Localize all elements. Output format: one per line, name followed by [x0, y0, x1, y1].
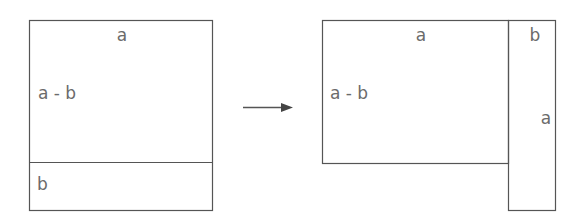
rearrangement-diagram: a a - b b a a - b b a — [0, 0, 578, 216]
left-square — [30, 21, 213, 211]
arrow-icon — [243, 103, 293, 112]
right-strip-side-label: a — [541, 108, 551, 128]
right-figure: a a - b b a — [323, 21, 556, 211]
left-top-label: a — [117, 25, 127, 45]
right-strip-top-label: b — [530, 25, 541, 45]
left-side-label: a - b — [38, 83, 76, 103]
right-main-top-label: a — [416, 25, 426, 45]
left-figure: a a - b b — [30, 21, 213, 211]
left-bottom-label: b — [37, 174, 48, 194]
right-main-side-label: a - b — [330, 83, 368, 103]
